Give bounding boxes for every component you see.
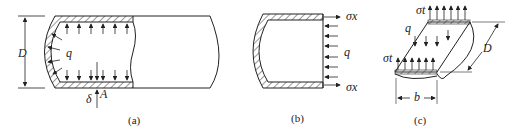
label-pressure-a: q bbox=[66, 46, 72, 60]
caption-b: (b) bbox=[291, 112, 304, 125]
label-pressure-b: q bbox=[344, 45, 350, 59]
label-diameter-c: D bbox=[482, 41, 492, 55]
caption-c: (c) bbox=[414, 114, 427, 127]
caption-a: (a) bbox=[128, 114, 141, 127]
panel-a: D q δ A (a) bbox=[17, 16, 219, 127]
label-pressure-c: q bbox=[405, 21, 411, 35]
label-stress-t-left: σt bbox=[383, 51, 393, 65]
panel-b: σx q σx (b) bbox=[253, 9, 358, 125]
panel-c: σt q σt D b (c) bbox=[383, 3, 505, 127]
pressure-vessel-diagram: D q δ A (a) bbox=[0, 0, 519, 133]
label-diameter-a: D bbox=[17, 46, 27, 60]
label-width-b: b bbox=[414, 90, 420, 104]
label-stress-t-top: σt bbox=[416, 3, 426, 17]
label-stress-x-top: σx bbox=[346, 9, 358, 23]
label-stress-x-bottom: σx bbox=[346, 80, 358, 94]
label-point-a: A bbox=[99, 87, 108, 101]
label-thickness: δ bbox=[86, 92, 92, 106]
